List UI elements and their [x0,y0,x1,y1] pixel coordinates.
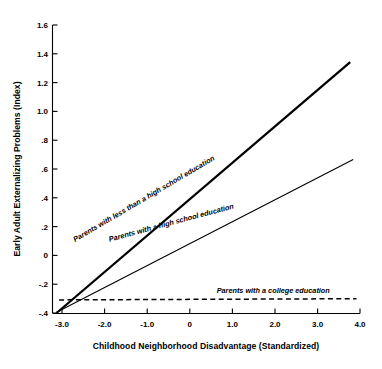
y-tick-label: -.2 [39,280,49,289]
x-tick-label: 1.0 [227,320,239,329]
chart-svg: 1.6 1.4 1.2 1.0 .8 .6 .4 .2 0 -.2 -.4 -3… [0,0,382,369]
x-tick-label: -2.0 [98,320,112,329]
x-axis-title: Childhood Neighborhood Disadvantage (Sta… [93,341,320,351]
y-tick-label: .4 [41,194,48,203]
x-tick-label: 0 [188,320,193,329]
series-label-college: Parents with a college education [217,286,331,295]
y-tick-label: 0 [44,251,49,260]
y-axis-title: Early Adult Externalizing Problems (Inde… [12,81,22,256]
y-tick-label: .6 [41,165,48,174]
x-tick-label: 4.0 [354,320,366,329]
y-tick-label: 1.6 [37,21,49,30]
chart-figure: 1.6 1.4 1.2 1.0 .8 .6 .4 .2 0 -.2 -.4 -3… [0,0,382,369]
y-tick-label: 1.0 [37,107,49,116]
x-tick-label: 3.0 [312,320,324,329]
y-tick-label: .2 [41,223,48,232]
x-tick-label: -3.0 [55,320,69,329]
y-tick-label: 1.4 [37,50,49,59]
y-tick-label: -.4 [39,309,49,318]
y-tick-label: 1.2 [37,79,49,88]
x-tick-label: 2.0 [269,320,281,329]
x-tick-label: -1.0 [140,320,154,329]
y-tick-label: .8 [41,136,48,145]
